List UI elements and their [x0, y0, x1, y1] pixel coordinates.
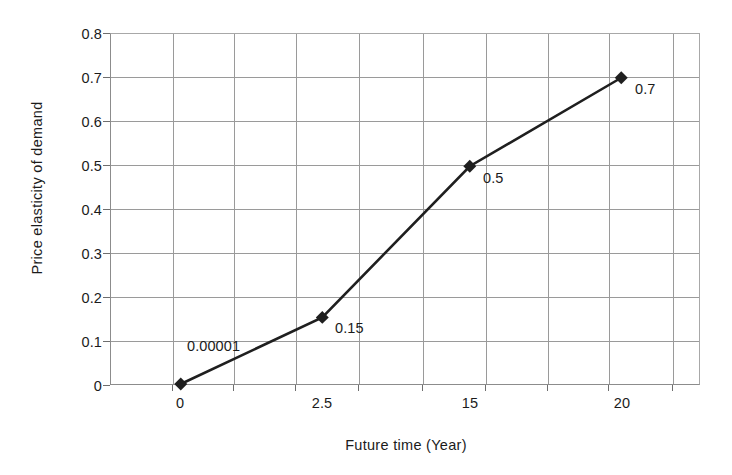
data-label-2: 0.5 [483, 171, 503, 186]
x-tick-label-15: 15 [435, 396, 505, 411]
y-tick-label-0.2: 0.2 [54, 291, 102, 306]
y-tick-label-0: 0 [54, 379, 102, 394]
x-tick-mark-5 [422, 385, 423, 391]
y-tick-mark-0 [103, 385, 110, 386]
series-line-price-elasticity [111, 34, 699, 384]
x-tick-mark-1 [172, 385, 173, 391]
x-tick-label-2.5: 2.5 [287, 396, 357, 411]
x-tick-label-0: 0 [145, 396, 215, 411]
x-tick-mark-7 [547, 385, 548, 391]
data-label-0: 0.00001 [187, 339, 240, 354]
y-tick-label-0.1: 0.1 [54, 335, 102, 350]
data-point-marker-0 [174, 378, 187, 391]
data-label-1: 0.15 [335, 321, 364, 336]
y-tick-mark-0.1 [103, 341, 110, 342]
y-tick-label-0.4: 0.4 [54, 203, 102, 218]
plot-area: 0.00001 0.15 0.5 0.7 [110, 33, 700, 385]
y-tick-mark-0.3 [103, 253, 110, 254]
y-tick-label-0.8: 0.8 [54, 27, 102, 42]
x-tick-label-20: 20 [587, 396, 657, 411]
y-tick-label-0.5: 0.5 [54, 159, 102, 174]
y-axis-title: Price elasticity of demand [29, 73, 45, 303]
y-tick-label-0.7: 0.7 [54, 71, 102, 86]
x-tick-mark-9 [672, 385, 673, 391]
y-axis-tick-labels: 0.8 0.7 0.6 0.5 0.4 0.3 0.2 0.1 0 [48, 0, 102, 475]
x-axis-title: Future time (Year) [226, 437, 586, 453]
x-tick-mark-4 [358, 385, 359, 391]
y-tick-mark-0.8 [103, 33, 110, 34]
y-tick-mark-0.4 [103, 209, 110, 210]
y-tick-mark-0.7 [103, 77, 110, 78]
y-tick-mark-0.2 [103, 297, 110, 298]
chart-figure: 0.8 0.7 0.6 0.5 0.4 0.3 0.2 0.1 0 Price … [0, 0, 732, 475]
x-tick-mark-3 [295, 385, 296, 391]
x-tick-mark-8 [608, 385, 609, 391]
y-tick-label-0.3: 0.3 [54, 247, 102, 262]
y-tick-mark-0.5 [103, 165, 110, 166]
y-tick-label-0.6: 0.6 [54, 115, 102, 130]
y-tick-mark-0.6 [103, 121, 110, 122]
x-tick-mark-6 [485, 385, 486, 391]
data-label-3: 0.7 [635, 82, 655, 97]
series-polyline [181, 78, 622, 384]
data-point-marker-3 [615, 71, 628, 84]
x-tick-mark-2 [233, 385, 234, 391]
